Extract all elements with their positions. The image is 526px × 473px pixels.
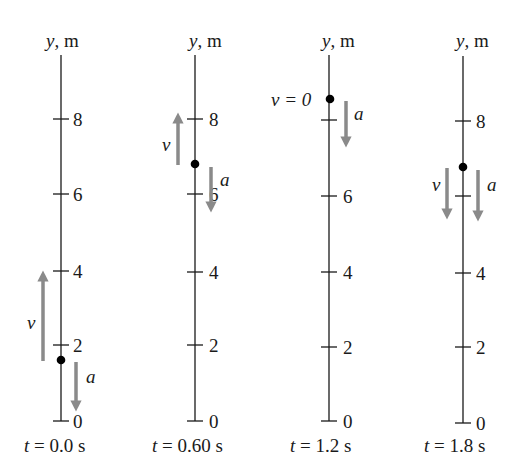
panel-t0: y, m 0 2 4 6 8 v a t = 0.0 s	[24, 30, 96, 456]
tick-label: 2	[476, 337, 486, 358]
tick-label: 4	[73, 261, 83, 282]
time-label: t = 1.8 s	[424, 435, 485, 456]
panel-t18: y, m 0 2 4 8 v a t = 1.8 s	[424, 30, 497, 456]
tick-label: 4	[209, 262, 219, 283]
particle-dot	[191, 160, 200, 169]
tick-label: 0	[73, 411, 83, 432]
tick-label: 2	[209, 335, 219, 356]
axis-label: y, m	[454, 30, 489, 51]
tick-label: 6	[73, 184, 83, 205]
axis-label: y, m	[320, 30, 355, 51]
tick-label: 0	[476, 413, 486, 434]
time-label: t = 0.0 s	[24, 435, 85, 456]
tick-label: 2	[73, 335, 83, 356]
kinematics-figure: y, m 0 2 4 6 8 v a t = 0.0 s y, m 0 2 4 …	[0, 0, 526, 473]
tick-label: 8	[209, 109, 219, 130]
tick-label: 0	[209, 411, 219, 432]
acceleration-label: a	[487, 174, 497, 195]
velocity-label: v	[432, 174, 441, 195]
axis-label: y, m	[44, 30, 79, 51]
velocity-label: v	[162, 134, 171, 155]
particle-dot	[326, 95, 335, 104]
time-label: t = 0.60 s	[152, 435, 223, 456]
particle-dot	[57, 356, 66, 365]
velocity-label: v	[27, 312, 36, 333]
acceleration-label: a	[354, 103, 364, 124]
tick-label: 4	[343, 262, 353, 283]
tick-label: 0	[343, 411, 353, 432]
axis-label: y, m	[187, 30, 222, 51]
tick-label: 8	[73, 109, 83, 130]
tick-label: 6	[343, 186, 353, 207]
tick-label: 8	[476, 111, 486, 132]
acceleration-label: a	[86, 366, 96, 387]
panel-t12: y, m 0 2 4 6 v = 0 a t = 1.2 s	[271, 30, 364, 456]
tick-label: 4	[476, 263, 486, 284]
time-label: t = 1.2 s	[290, 435, 351, 456]
tick-label: 2	[343, 337, 353, 358]
particle-dot	[459, 163, 468, 172]
panel-t060: y, m 0 2 4 6 8 v a t = 0.60 s	[152, 30, 230, 456]
acceleration-label: a	[220, 169, 230, 190]
velocity-zero-label: v = 0	[271, 89, 312, 110]
